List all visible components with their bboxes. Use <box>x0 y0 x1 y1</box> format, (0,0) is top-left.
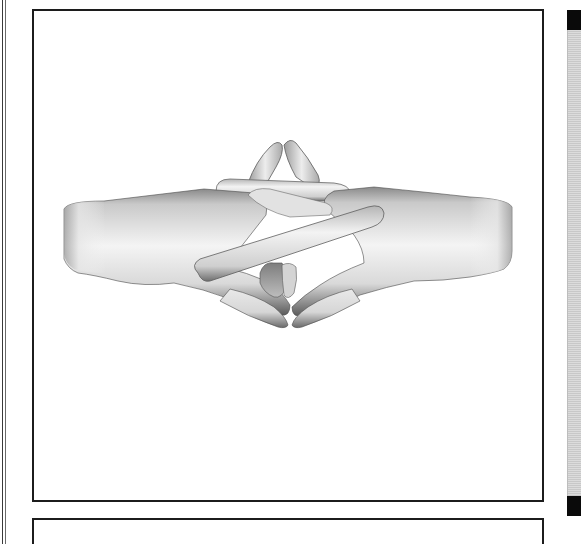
scroll-up-arrow-icon[interactable] <box>567 10 581 30</box>
scroll-track[interactable] <box>567 30 581 496</box>
next-figure-frame <box>32 518 544 544</box>
figure-frame <box>32 9 544 502</box>
left-border-rule <box>2 0 3 544</box>
clasped-hands-image <box>34 11 542 500</box>
scroll-down-arrow-icon[interactable] <box>567 496 581 516</box>
image-viewer <box>0 0 581 544</box>
vertical-scrollbar[interactable] <box>567 10 581 516</box>
left-border-rule-inner <box>5 0 6 544</box>
